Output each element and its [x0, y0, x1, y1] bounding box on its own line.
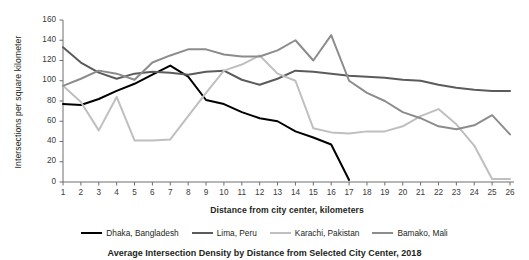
legend-label: Karachi, Pakistan: [295, 228, 360, 238]
legend-item[interactable]: Bamako, Mali: [372, 228, 447, 238]
chart-figure: Intersections per square kilometer Dista…: [0, 0, 529, 260]
legend-label: Bamako, Mali: [397, 228, 447, 238]
figure-caption: Average Intersection Density by Distance…: [0, 248, 529, 258]
legend-item[interactable]: Karachi, Pakistan: [270, 228, 360, 238]
plot-area: [0, 0, 529, 260]
legend-item[interactable]: Lima, Peru: [192, 228, 257, 238]
legend-swatch-line-icon: [372, 232, 393, 234]
legend-swatch-line-icon: [270, 232, 291, 234]
series-line: [63, 47, 510, 91]
legend-swatch-line-icon: [192, 232, 213, 234]
legend-swatch-line-icon: [81, 232, 102, 234]
series-line: [63, 66, 349, 180]
legend-label: Lima, Peru: [217, 228, 257, 238]
chart-legend: Dhaka, BangladeshLima, PeruKarachi, Paki…: [0, 228, 529, 238]
legend-item[interactable]: Dhaka, Bangladesh: [81, 228, 178, 238]
legend-label: Dhaka, Bangladesh: [106, 228, 178, 238]
